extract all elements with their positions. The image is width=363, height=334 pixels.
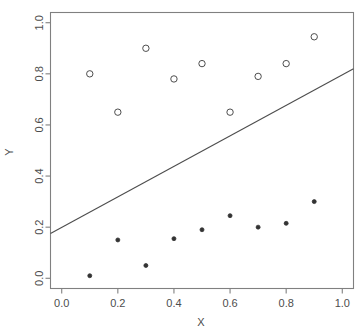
y-tick-label: 0.0 xyxy=(34,271,46,286)
x-tick-label: 1.0 xyxy=(335,297,350,309)
data-point xyxy=(312,200,316,204)
data-point xyxy=(256,225,260,229)
figure-background xyxy=(0,0,363,334)
x-axis-title: X xyxy=(197,316,205,328)
data-point xyxy=(172,237,176,241)
x-tick-label: 0.4 xyxy=(166,297,181,309)
x-tick-label: 0.8 xyxy=(279,297,294,309)
scatter-plot-figure: 0.00.20.40.60.81.0 0.00.20.40.60.81.0 X … xyxy=(0,0,363,334)
x-tick-label: 0.0 xyxy=(54,297,69,309)
plot-canvas: 0.00.20.40.60.81.0 0.00.20.40.60.81.0 X … xyxy=(0,0,363,334)
data-point xyxy=(116,238,120,242)
y-tick-label: 0.8 xyxy=(34,66,46,81)
y-tick-label: 0.2 xyxy=(34,220,46,235)
x-tick-label: 0.6 xyxy=(222,297,237,309)
data-point xyxy=(200,228,204,232)
y-tick-label: 1.0 xyxy=(34,15,46,30)
y-axis-title: Y xyxy=(3,148,15,156)
data-point xyxy=(88,274,92,278)
data-point xyxy=(144,264,148,268)
x-tick-label: 0.2 xyxy=(110,297,125,309)
y-tick-label: 0.4 xyxy=(34,168,46,183)
y-tick-label: 0.6 xyxy=(34,117,46,132)
data-point xyxy=(228,214,232,218)
data-point xyxy=(284,221,288,225)
